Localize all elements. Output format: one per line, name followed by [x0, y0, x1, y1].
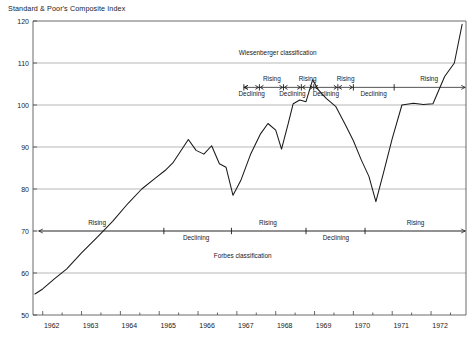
band-segment-label-declining: Declining	[360, 90, 387, 98]
y-axis-label: 90	[21, 144, 29, 151]
band-title-wiesenberger: Wiesenberger classification	[239, 49, 317, 57]
axis-ticks-group	[33, 21, 450, 315]
x-axis-label: 1970	[355, 322, 371, 329]
annotation-band-wiesenberger: DecliningRisingDecliningRisingDecliningR…	[238, 49, 465, 99]
y-axis-label: 50	[21, 312, 29, 319]
band-segment-label-declining: Declining	[238, 90, 265, 98]
x-axis-label: 1965	[160, 322, 176, 329]
band-segment-label-rising: Rising	[263, 75, 281, 83]
y-axis-label: 60	[21, 270, 29, 277]
x-axis-label: 1972	[432, 322, 448, 329]
y-axis-label: 110	[18, 60, 29, 67]
y-axis-label: 80	[21, 186, 29, 193]
band-segment-label-rising: Rising	[337, 75, 355, 83]
x-axis-label: 1962	[44, 322, 60, 329]
x-axis-label: 1971	[393, 322, 409, 329]
band-segment-label-declining: Declining	[279, 90, 306, 98]
band-segment-label-rising: Rising	[259, 219, 277, 227]
band-segment-label-rising: Rising	[407, 219, 425, 227]
chart-container: Standard & Poor's Composite Index 506070…	[0, 0, 476, 343]
band-segment-label-declining: Declining	[183, 234, 210, 242]
x-axis-labels-group: 1962196319641965196619671968196919701971…	[44, 322, 448, 329]
x-axis-label: 1967	[238, 322, 254, 329]
plot-frame-group	[33, 21, 466, 315]
band-segment-label-declining: Declining	[313, 90, 340, 98]
x-axis-label: 1969	[316, 322, 332, 329]
annotation-band-forbes: RisingDecliningRisingDecliningRisingForb…	[39, 219, 465, 259]
y-axis-labels-group: 5060708090100110120	[17, 18, 29, 319]
y-axis-label: 70	[21, 228, 29, 235]
x-axis-label: 1964	[122, 322, 138, 329]
x-axis-label: 1966	[199, 322, 215, 329]
band-title-forbes: Forbes classification	[214, 252, 272, 259]
band-segment-label-declining: Declining	[323, 234, 350, 242]
band-segment-label-rising: Rising	[420, 75, 438, 83]
annotation-bands-group: DecliningRisingDecliningRisingDecliningR…	[39, 49, 465, 260]
x-axis-label: 1968	[277, 322, 293, 329]
plot-frame	[33, 21, 466, 315]
band-segment-label-rising: Rising	[88, 219, 106, 227]
x-axis-label: 1963	[83, 322, 99, 329]
chart-plot: 5060708090100110120 19621963196419651966…	[0, 0, 476, 343]
y-axis-label: 120	[17, 18, 29, 25]
y-axis-label: 100	[17, 102, 29, 109]
